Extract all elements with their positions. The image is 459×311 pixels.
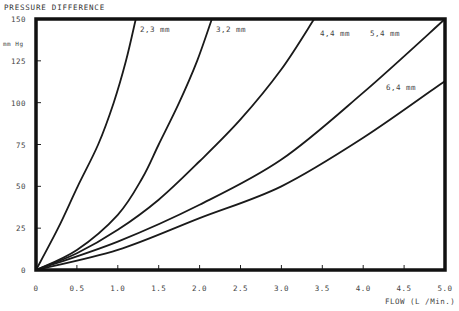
series-label: 2,3 mm [140,25,170,34]
series-line-3-2-mm [36,19,212,270]
x-tick-label: 5.0 [437,284,452,293]
chart: PRESSURE DIFFERENCE mm Hg FLOW (L /Min.)… [0,0,459,311]
y-axis-title: PRESSURE DIFFERENCE [4,3,105,12]
x-tick-label: 3.0 [274,284,289,293]
x-tick-label: 0 [33,284,38,293]
y-tick-label: 75 [16,141,26,150]
y-axis-unit: mm Hg [3,40,24,48]
y-tick-label: 150 [11,15,26,24]
y-tick-label: 50 [16,182,26,191]
series-label: 6,4 mm [386,83,416,92]
x-tick-label: 2.5 [233,284,248,293]
x-tick-label: 3.5 [315,284,330,293]
series-line-4-4-mm [36,19,314,270]
series-label: 3,2 mm [216,25,246,34]
x-axis-title: FLOW (L /Min.) [385,297,455,306]
series-lines [36,19,445,270]
series-label: 5,4 mm [370,29,400,38]
y-tick-label: 100 [11,99,26,108]
y-tick-label: 125 [11,57,26,66]
x-tick-label: 1.0 [110,284,125,293]
x-tick-label: 4.0 [356,284,371,293]
y-tick-label: 25 [16,224,26,233]
x-tick-label: 2.0 [192,284,207,293]
x-tick-label: 4.5 [397,284,412,293]
x-tick-label: 0.5 [69,284,84,293]
x-tick-label: 1.5 [151,284,166,293]
series-line-2-3-mm [36,19,136,270]
series-label: 4,4 mm [320,29,350,38]
y-tick-label: 0 [21,266,26,275]
